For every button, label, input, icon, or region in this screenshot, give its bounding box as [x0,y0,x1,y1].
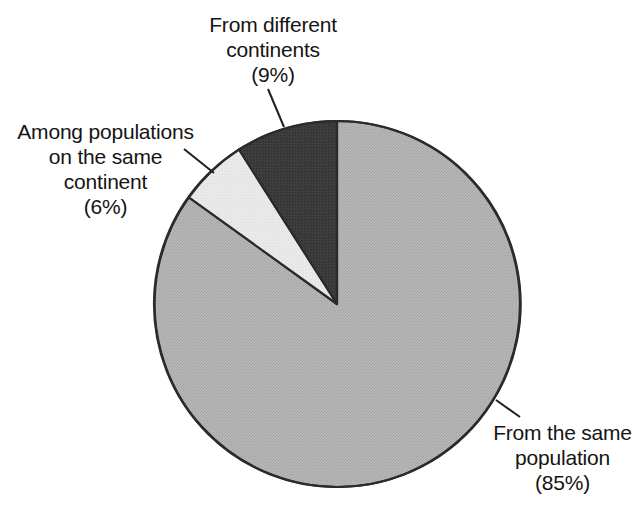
slice-label-value: (6%) [8,194,203,219]
slice-label-among-populations-same-continent: Among populations on the same continent … [8,119,203,219]
slice-label-line: on the same [8,144,203,169]
slice-label-line: From the same [481,420,644,445]
slice-label-line: Among populations [8,119,203,144]
slice-label-line: continents [182,37,364,62]
slice-label-line: continent [8,169,203,194]
slice-label-from-different-continents: From different continents (9%) [182,12,364,87]
slice-label-value: (9%) [182,62,364,87]
slice-label-from-the-same-population: From the same population (85%) [481,420,644,495]
slice-label-line: From different [182,12,364,37]
slice-label-line: population [481,445,644,470]
slice-label-value: (85%) [481,470,644,495]
leader-line-same-population [496,400,520,417]
leader-line-continents [268,89,284,127]
pie-chart-figure: From different continents (9%) Among pop… [0,0,644,515]
